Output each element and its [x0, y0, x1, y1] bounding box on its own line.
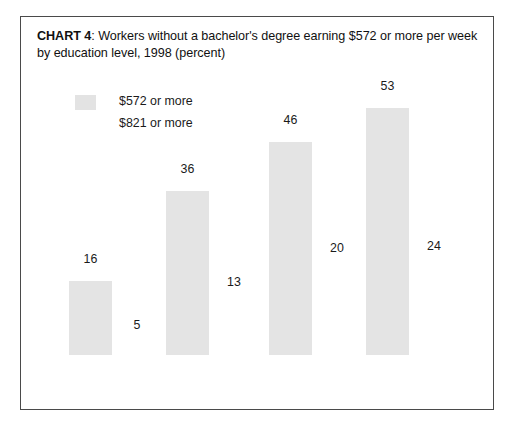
bar-secondary-value-label: 5 — [118, 318, 156, 332]
bar-value-label: 36 — [166, 162, 209, 176]
table-row — [69, 281, 112, 355]
bar-secondary-value-label: 20 — [318, 241, 356, 255]
bar-secondary-value-label: 24 — [415, 239, 453, 253]
bar-value-label: 16 — [69, 252, 112, 266]
plot-area: 16 5 Less than a high school diploma 36 … — [21, 17, 494, 410]
table-row — [269, 142, 312, 355]
bar-secondary-value-label: 13 — [215, 275, 253, 289]
bar-value-label: 46 — [269, 113, 312, 127]
table-row — [366, 108, 409, 355]
bar-value-label: 53 — [366, 79, 409, 93]
chart-frame: CHART 4: Workers without a bachelor's de… — [20, 16, 494, 410]
table-row — [166, 191, 209, 355]
